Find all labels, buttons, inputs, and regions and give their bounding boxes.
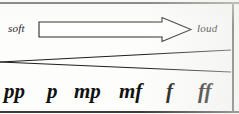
dynamics-figure: soft loud pp p mp mf f ff — [0, 0, 239, 114]
frame-top-rule — [0, 2, 239, 4]
crescendo-hairpin-icon — [0, 44, 234, 76]
frame-bottom-rule — [0, 111, 239, 113]
dynamic-marking-pp: pp — [4, 76, 25, 106]
loud-label: loud — [197, 22, 217, 34]
dynamic-marking-mp: mp — [74, 76, 101, 106]
dynamic-marking-f: f — [166, 76, 173, 106]
dynamic-marking-p: p — [47, 76, 58, 106]
dynamic-marking-ff: ff — [198, 76, 212, 106]
dynamic-marking-mf: mf — [119, 76, 142, 106]
soft-label: soft — [8, 22, 25, 34]
dynamics-row: pp p mp mf f ff — [0, 76, 232, 108]
right-arrow-icon — [38, 17, 193, 43]
